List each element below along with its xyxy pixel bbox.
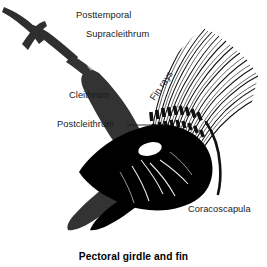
- label-postcleithrum: Postcleithrum: [57, 119, 114, 130]
- pectoral-girdle-illustration: [0, 0, 267, 267]
- label-cleithrum: Cleithrum: [69, 90, 109, 101]
- label-supracleithrum: Supracleithrum: [86, 29, 149, 40]
- posttemporal-bone: [2, 7, 78, 64]
- label-posttemporal: Posttemporal: [76, 10, 131, 21]
- figure-container: Posttemporal Supracleithrum Cleithrum Po…: [0, 0, 267, 267]
- figure-caption: Pectoral girdle and fin: [0, 251, 267, 262]
- label-coracoscapula: Coracoscapula: [188, 204, 251, 215]
